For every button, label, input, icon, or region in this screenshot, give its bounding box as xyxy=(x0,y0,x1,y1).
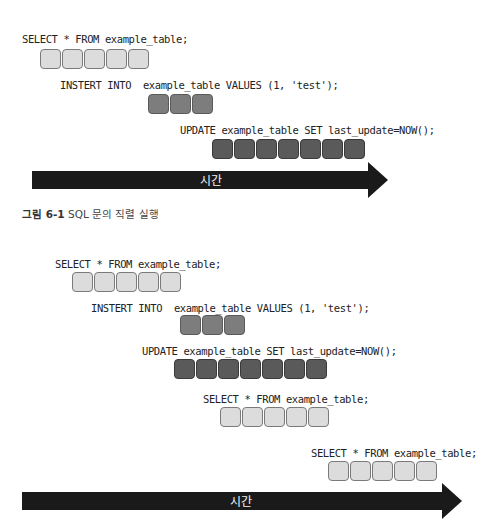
query-label-insert: INSTERT INTO example_table VALUES (1, 't… xyxy=(91,302,369,314)
time-block xyxy=(196,359,217,379)
time-block xyxy=(106,49,127,69)
time-block xyxy=(416,461,437,481)
query-label-select: SELECT * FROM example_table; xyxy=(311,447,477,459)
time-block xyxy=(174,359,195,379)
query-blocks-insert xyxy=(180,315,246,335)
query-blocks-select xyxy=(40,49,150,69)
time-block xyxy=(72,272,93,292)
time-block xyxy=(300,139,321,159)
query-blocks-select xyxy=(328,461,438,481)
time-block xyxy=(160,272,181,292)
time-arrow-label: 시간 xyxy=(230,492,252,509)
query-blocks-update xyxy=(212,139,366,159)
time-block xyxy=(308,407,329,427)
time-block xyxy=(262,359,283,379)
query-blocks-update xyxy=(174,359,328,379)
time-block xyxy=(192,94,213,114)
figure-number: 그림 6-1 xyxy=(22,208,65,220)
time-block xyxy=(202,315,223,335)
figure-caption-text: SQL 문의 직렬 실행 xyxy=(65,208,159,220)
time-block xyxy=(372,461,393,481)
time-block xyxy=(242,407,263,427)
time-block xyxy=(220,407,241,427)
time-block xyxy=(224,315,245,335)
query-label-update: UPDATE example_table SET last_update=NOW… xyxy=(180,124,435,136)
time-block xyxy=(180,315,201,335)
time-block xyxy=(322,139,343,159)
time-block xyxy=(218,359,239,379)
figure-caption: 그림 6-1 SQL 문의 직렬 실행 xyxy=(22,206,159,221)
time-block xyxy=(40,49,61,69)
query-label-select: SELECT * FROM example_table; xyxy=(55,258,221,270)
time-block xyxy=(116,272,137,292)
query-blocks-select xyxy=(72,272,182,292)
time-block xyxy=(278,139,299,159)
time-arrow-head xyxy=(442,483,462,519)
time-block xyxy=(240,359,261,379)
query-label-select: SELECT * FROM example_table; xyxy=(203,393,369,405)
time-block xyxy=(170,94,191,114)
time-arrow: 시간 xyxy=(32,162,390,200)
time-block xyxy=(306,359,327,379)
query-blocks-select xyxy=(220,407,330,427)
query-label-insert: INSTERT INTO example_table VALUES (1, 't… xyxy=(60,79,338,91)
time-block xyxy=(212,139,233,159)
time-block xyxy=(350,461,371,481)
time-arrow: 시간 xyxy=(22,483,462,521)
time-block xyxy=(394,461,415,481)
query-label-select: SELECT * FROM example_table; xyxy=(22,33,188,45)
time-block xyxy=(62,49,83,69)
time-block xyxy=(148,94,169,114)
time-block xyxy=(256,139,277,159)
time-block xyxy=(94,272,115,292)
time-arrow-head xyxy=(368,162,388,198)
time-block xyxy=(264,407,285,427)
query-blocks-insert xyxy=(148,94,214,114)
time-block xyxy=(128,49,149,69)
time-block xyxy=(284,359,305,379)
time-arrow-label: 시간 xyxy=(200,171,222,188)
query-label-update: UPDATE example_table SET last_update=NOW… xyxy=(142,345,397,357)
time-block xyxy=(138,272,159,292)
time-block xyxy=(234,139,255,159)
time-block xyxy=(344,139,365,159)
time-block xyxy=(84,49,105,69)
time-block xyxy=(328,461,349,481)
time-block xyxy=(286,407,307,427)
